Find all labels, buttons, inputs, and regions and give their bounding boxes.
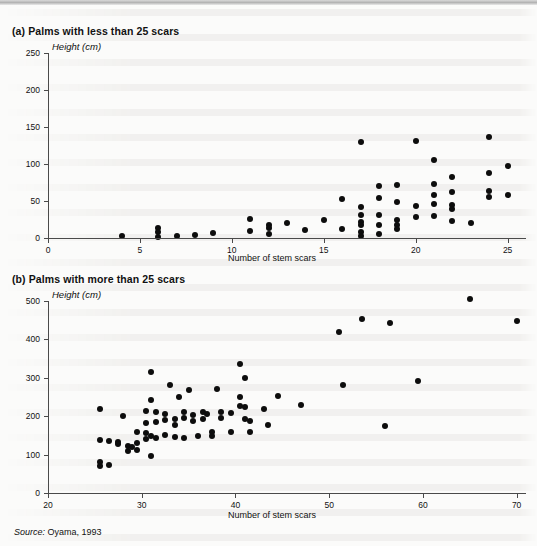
data-point	[394, 199, 400, 205]
source-note-prefix: Source:	[14, 527, 45, 537]
panel-a-points-layer	[48, 53, 526, 238]
panel-b-x-tick	[517, 493, 518, 498]
data-point	[302, 227, 308, 233]
data-point	[176, 394, 182, 400]
panel-b-y-tick-label: 0	[8, 488, 40, 498]
panel-b-y-tick-label: 400	[8, 334, 40, 344]
data-point	[298, 402, 304, 408]
panel-a-x-tick	[140, 238, 141, 243]
data-point	[237, 394, 243, 400]
panel-a-x-axis-label: Number of stem scars	[228, 253, 316, 263]
panel-b-x-tick-label: 20	[33, 500, 63, 510]
data-point	[339, 226, 345, 232]
panel-a-x-tick	[324, 238, 325, 243]
panel-b-y-axis-line	[48, 301, 49, 493]
panel-a-y-tick	[44, 53, 49, 54]
data-point	[242, 375, 248, 381]
panel-b-x-tick	[329, 493, 330, 498]
panel-b-y-tick	[44, 301, 49, 302]
data-point	[431, 181, 437, 187]
data-point	[210, 230, 216, 236]
panel-b-x-tick-label: 30	[127, 500, 157, 510]
data-point	[376, 231, 382, 237]
data-point	[172, 434, 178, 440]
panel-b-x-tick	[48, 493, 49, 498]
data-point	[134, 440, 140, 446]
data-point	[358, 222, 364, 228]
data-point	[97, 437, 103, 443]
panel-b-x-tick-label: 60	[408, 500, 438, 510]
data-point	[284, 220, 290, 226]
data-point	[486, 134, 492, 140]
data-point	[468, 220, 474, 226]
panel-a-x-tick-label: 5	[125, 245, 155, 255]
panel-a-x-axis-line	[48, 238, 526, 239]
panel-b-x-axis-line	[48, 493, 526, 494]
data-point	[167, 382, 173, 388]
data-point	[162, 432, 168, 438]
data-point	[413, 214, 419, 220]
data-point	[275, 393, 281, 399]
data-point	[382, 423, 388, 429]
data-point	[358, 139, 364, 145]
data-point	[186, 387, 192, 393]
data-point	[431, 213, 437, 219]
panel-a-y-tick	[44, 164, 49, 165]
data-point	[394, 182, 400, 188]
data-point	[134, 429, 140, 435]
panel-b-x-tick	[235, 493, 236, 498]
panel-a-y-axis-line	[48, 53, 49, 238]
data-point	[449, 218, 455, 224]
data-point	[172, 422, 178, 428]
data-point	[449, 206, 455, 212]
data-point	[376, 183, 382, 189]
panel-b-y-tick-label: 100	[8, 450, 40, 460]
data-point	[148, 453, 154, 459]
data-point	[247, 429, 253, 435]
panel-b-y-tick-label: 300	[8, 373, 40, 383]
panel-b-y-tick-label: 200	[8, 411, 40, 421]
panel-a-y-tick	[44, 90, 49, 91]
data-point	[181, 409, 187, 415]
data-point	[358, 212, 364, 218]
scan-edge-band	[0, 0, 537, 5]
panel-b-title: (b) Palms with more than 25 scars	[12, 273, 185, 285]
panel-a-x-tick	[508, 238, 509, 243]
data-point	[376, 222, 382, 228]
data-point	[431, 201, 437, 207]
data-point	[153, 435, 159, 441]
panel-a-y-tick-label: 250	[8, 48, 40, 58]
data-point	[218, 415, 224, 421]
data-point	[195, 433, 201, 439]
data-point	[376, 212, 382, 218]
data-point	[143, 420, 149, 426]
data-point	[359, 316, 365, 322]
data-point	[394, 226, 400, 232]
data-point	[153, 409, 159, 415]
data-point	[514, 318, 520, 324]
data-point	[467, 296, 473, 302]
data-point	[413, 138, 419, 144]
panel-a-y-tick-label: 100	[8, 159, 40, 169]
panel-b-x-axis-label: Number of stem scars	[228, 510, 316, 520]
data-point	[228, 410, 234, 416]
panel-a-x-tick-label: 25	[493, 245, 523, 255]
data-point	[106, 462, 112, 468]
panel-a-x-tick	[232, 238, 233, 243]
data-point	[449, 174, 455, 180]
data-point	[97, 463, 103, 469]
panel-a-y-tick	[44, 127, 49, 128]
data-point	[237, 361, 243, 367]
panel-a-y-tick-label: 50	[8, 196, 40, 206]
data-point	[134, 447, 140, 453]
panel-b-y-tick	[44, 455, 49, 456]
data-point	[181, 435, 187, 441]
panel-a-y-tick-label: 150	[8, 122, 40, 132]
panel-b-x-tick-label: 70	[502, 500, 532, 510]
data-point	[242, 404, 248, 410]
data-point	[97, 406, 103, 412]
source-note: Source: Oyama, 1993	[14, 527, 102, 537]
data-point	[106, 438, 112, 444]
data-point	[190, 418, 196, 424]
data-point	[266, 231, 272, 237]
